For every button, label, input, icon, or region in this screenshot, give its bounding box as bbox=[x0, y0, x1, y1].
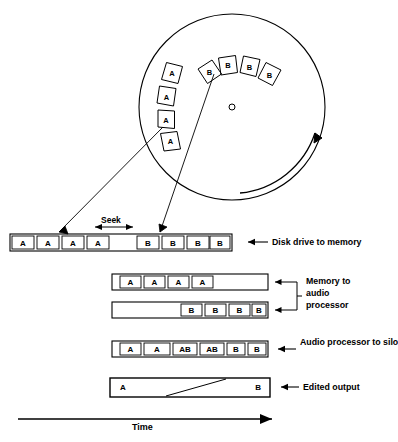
track-edited-output-callout-arrow bbox=[281, 384, 299, 390]
edited-output-label-b: B bbox=[255, 383, 261, 392]
svg-text:B: B bbox=[254, 345, 260, 354]
svg-text:A: A bbox=[95, 239, 101, 248]
disk-rotation-arrow-icon bbox=[240, 133, 322, 193]
svg-text:A: A bbox=[163, 116, 169, 125]
diagram-vector-layer: A A A A B B bbox=[0, 0, 398, 442]
track-memory-to-audio-a-callout-arrow bbox=[275, 279, 292, 285]
svg-text:B: B bbox=[189, 306, 195, 315]
leader-arrowhead-b bbox=[159, 224, 167, 232]
track-edited-output: A B bbox=[110, 378, 299, 397]
svg-text:B: B bbox=[237, 306, 243, 315]
svg-text:A: A bbox=[128, 345, 134, 354]
crossfade-diagonal bbox=[166, 379, 226, 396]
svg-text:B: B bbox=[195, 239, 201, 248]
svg-text:A: A bbox=[128, 278, 134, 287]
track-memory-to-audio-b-callout-arrow bbox=[275, 307, 292, 313]
disk-sector-b-4: B bbox=[258, 63, 281, 86]
svg-text:A: A bbox=[176, 278, 182, 287]
memory-to-audio-bracket bbox=[292, 282, 302, 310]
disk-sector-a-2: A bbox=[157, 86, 176, 106]
svg-text:B: B bbox=[256, 306, 262, 315]
svg-text:B: B bbox=[225, 61, 231, 70]
disk-sector-b-2: B bbox=[219, 56, 238, 76]
diagram-canvas: A A A A B B bbox=[0, 0, 398, 442]
svg-text:A: A bbox=[164, 93, 170, 102]
svg-text:B: B bbox=[170, 239, 176, 248]
svg-text:B: B bbox=[247, 63, 253, 72]
svg-text:B: B bbox=[145, 239, 151, 248]
svg-text:B: B bbox=[233, 345, 239, 354]
svg-text:A: A bbox=[70, 239, 76, 248]
svg-text:A: A bbox=[152, 278, 158, 287]
bracket-label-line-1: Memory to bbox=[306, 276, 350, 286]
track-disk-to-memory-blocks: A A A A B B B B bbox=[12, 236, 230, 249]
track-label-edited-output: Edited output bbox=[303, 382, 360, 392]
track-label-disk-to-memory: Disk drive to memory bbox=[272, 237, 361, 247]
track-memory-to-audio-b-blocks: B B B B bbox=[181, 304, 266, 316]
svg-text:A: A bbox=[45, 239, 51, 248]
svg-text:A: A bbox=[168, 137, 174, 146]
svg-text:AB: AB bbox=[206, 345, 218, 354]
track-memory-to-audio-a-blocks: A A A A bbox=[120, 276, 213, 288]
track-audio-to-silo: A A AB AB B B bbox=[112, 341, 296, 357]
edited-output-label-a: A bbox=[120, 383, 126, 392]
svg-text:A: A bbox=[154, 345, 160, 354]
svg-text:A: A bbox=[200, 278, 206, 287]
track-memory-to-audio-a: A A A A bbox=[112, 274, 292, 290]
svg-text:B: B bbox=[207, 68, 213, 77]
seek-label: Seek bbox=[101, 215, 121, 225]
track-disk-to-memory: A A A A B B B B bbox=[10, 234, 268, 251]
track-memory-to-audio-b: B B B B bbox=[112, 302, 292, 318]
time-axis-arrowhead bbox=[260, 414, 272, 424]
track-audio-to-silo-callout-arrow bbox=[278, 346, 296, 352]
svg-text:B: B bbox=[267, 71, 273, 80]
disk-platter-group: A A A A B B bbox=[139, 14, 325, 200]
disk-sector-b-1: B bbox=[198, 60, 222, 84]
disk-sector-a-3: A bbox=[158, 110, 175, 129]
disk-outer-circle bbox=[139, 14, 325, 200]
disk-sector-b-3: B bbox=[240, 56, 260, 77]
disk-spindle-hub-icon bbox=[229, 104, 235, 110]
disk-sector-a-1: A bbox=[162, 63, 183, 84]
time-axis-label: Time bbox=[132, 422, 153, 433]
track-label-audio-to-silo: Audio processor to silo bbox=[300, 337, 398, 347]
svg-text:AB: AB bbox=[179, 345, 191, 354]
bracket-label-line-3: processor bbox=[306, 300, 349, 310]
svg-text:A: A bbox=[169, 69, 175, 78]
svg-text:B: B bbox=[213, 306, 219, 315]
track-audio-to-silo-blocks: A A AB AB B B bbox=[120, 343, 266, 355]
svg-text:A: A bbox=[20, 239, 26, 248]
bracket-label-line-2: audio bbox=[306, 288, 329, 298]
track-disk-to-memory-callout-arrow bbox=[248, 239, 268, 245]
disk-sector-a-4: A bbox=[161, 132, 181, 152]
svg-text:B: B bbox=[217, 239, 223, 248]
